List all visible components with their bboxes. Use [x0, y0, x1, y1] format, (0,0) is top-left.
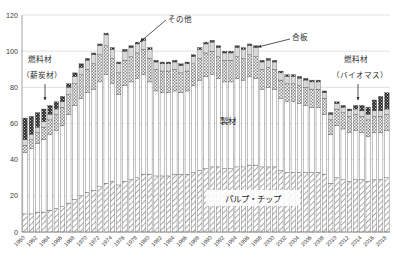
bar-segment-燃料材	[85, 58, 89, 60]
bar-segment-パルプ・チップ	[304, 172, 308, 232]
bar-segment-燃料材	[67, 84, 71, 88]
bar-segment-その他	[29, 134, 33, 139]
bar-segment-合板	[316, 89, 320, 107]
x-tick-1962: 1962	[25, 234, 38, 247]
x-tick-2002: 2002	[275, 234, 288, 247]
bar-segment-製材	[378, 133, 382, 180]
bar-segment-燃料材	[216, 46, 220, 48]
bar-segment-その他	[385, 109, 389, 114]
bar-segment-その他	[216, 48, 220, 57]
bar-segment-合板	[129, 57, 133, 82]
x-tick-2006: 2006	[300, 234, 313, 247]
bar-1988	[198, 48, 202, 232]
bar-segment-燃料材	[91, 53, 95, 55]
bar-segment-合板	[48, 120, 52, 134]
bar-1969	[79, 64, 83, 232]
bar-segment-パルプ・チップ	[54, 208, 58, 232]
bar-segment-製材	[135, 78, 139, 177]
bar-segment-パルプ・チップ	[123, 181, 127, 232]
bar-segment-合板	[310, 89, 314, 107]
x-tick-1990: 1990	[200, 234, 213, 247]
bar-segment-その他	[173, 62, 177, 69]
bar-segment-製材	[104, 75, 108, 183]
bar-segment-製材	[335, 125, 339, 177]
bar-segment-製材	[297, 104, 301, 173]
y-tick-120: 120	[6, 11, 18, 20]
bar-segment-燃料材	[279, 71, 283, 73]
bar-segment-製材	[154, 91, 158, 176]
bar-segment-合板	[123, 60, 127, 85]
bar-segment-燃料材	[322, 91, 326, 93]
bar-segment-製材	[185, 91, 189, 174]
bar-segment-パルプ・チップ	[116, 185, 120, 232]
bar-segment-パルプ・チップ	[173, 174, 177, 232]
bar-segment-パルプ・チップ	[372, 180, 376, 232]
bar-segment-燃料材	[198, 48, 202, 50]
bar-segment-製材	[91, 89, 95, 190]
bar-segment-合板	[329, 120, 333, 134]
bar-1964	[48, 105, 52, 232]
bar-segment-合板	[73, 84, 77, 106]
bar-segment-製材	[353, 131, 357, 180]
bar-segment-製材	[191, 86, 195, 173]
leader-line-plywood	[258, 39, 290, 47]
x-tick-1994: 1994	[225, 234, 238, 247]
bar-1963	[42, 109, 46, 232]
bar-segment-その他	[329, 114, 333, 119]
bar-segment-その他	[360, 111, 364, 116]
annotation-other-label: その他	[168, 14, 192, 24]
series-label-pulp-chips-group: パルプ・チップ	[206, 190, 300, 206]
bar-segment-その他	[179, 66, 183, 73]
bar-1985	[179, 64, 183, 232]
bar-segment-その他	[247, 46, 251, 55]
bar-1978	[135, 42, 139, 232]
bar-segment-パルプ・チップ	[48, 210, 52, 232]
annotation-other: その他	[140, 14, 192, 42]
x-tick-1988: 1988	[187, 234, 200, 247]
bar-segment-合板	[304, 87, 308, 105]
bar-segment-燃料材	[116, 62, 120, 64]
bar-segment-燃料材	[35, 113, 39, 127]
bar-segment-その他	[116, 64, 120, 73]
bar-segment-パルプ・チップ	[135, 178, 139, 232]
bar-1968	[73, 73, 77, 232]
bar-segment-燃料材	[385, 93, 389, 109]
bar-segment-合板	[98, 55, 102, 82]
bar-2000	[272, 60, 276, 232]
bar-1982	[160, 62, 164, 232]
x-tick-1982: 1982	[150, 234, 163, 247]
bar-segment-燃料材	[304, 78, 308, 80]
bar-segment-パルプ・チップ	[160, 176, 164, 232]
bar-segment-合板	[160, 71, 164, 93]
bar-segment-製材	[141, 75, 145, 174]
bar-segment-その他	[48, 114, 52, 119]
x-tick-2014: 2014	[350, 234, 363, 247]
bar-segment-その他	[23, 140, 27, 145]
bar-segment-燃料材	[135, 42, 139, 44]
bar-segment-合板	[366, 120, 370, 136]
bar-1983	[166, 62, 170, 232]
bar-2017	[378, 96, 382, 232]
bar-segment-燃料材	[316, 80, 320, 82]
x-tick-1964: 1964	[38, 234, 51, 247]
bar-2012	[347, 109, 351, 232]
bar-segment-合板	[135, 53, 139, 78]
bar-segment-製材	[279, 98, 283, 170]
bar-segment-その他	[54, 109, 58, 114]
bar-segment-合板	[360, 116, 364, 132]
bar-segment-パルプ・チップ	[341, 180, 345, 232]
bar-1984	[173, 60, 177, 232]
bar-1981	[154, 60, 158, 232]
x-tick-1966: 1966	[50, 234, 63, 247]
bar-segment-その他	[210, 42, 214, 51]
bar-1960	[23, 118, 27, 232]
bar-1973	[104, 33, 108, 232]
y-tick-80: 80	[10, 83, 18, 92]
bar-2016	[372, 100, 376, 232]
bar-segment-合板	[378, 116, 382, 132]
bar-segment-その他	[73, 76, 77, 83]
bar-segment-燃料材	[235, 46, 239, 48]
annotation-fuel-wood-biomass: 燃料材 （バイオマス）	[332, 54, 388, 100]
bar-segment-その他	[254, 48, 258, 57]
bar-segment-パルプ・チップ	[335, 178, 339, 232]
